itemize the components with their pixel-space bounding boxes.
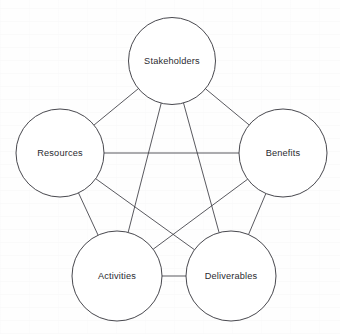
edge-stakeholders-resources xyxy=(94,89,138,125)
network-graph: StakeholdersResourcesBenefitsActivitiesD… xyxy=(0,0,340,334)
node-activities[interactable]: Activities xyxy=(72,231,162,321)
edge-stakeholders-benefits xyxy=(205,89,249,125)
diagram-canvas: StakeholdersResourcesBenefitsActivitiesD… xyxy=(0,0,340,334)
node-stakeholders[interactable]: Stakeholders xyxy=(129,18,216,105)
edge-resources-activities xyxy=(79,193,99,235)
node-benefits[interactable]: Benefits xyxy=(239,109,327,197)
node-label-resources: Resources xyxy=(37,148,83,158)
node-label-activities: Activities xyxy=(98,271,136,281)
node-label-benefits: Benefits xyxy=(266,148,301,158)
node-deliverables[interactable]: Deliverables xyxy=(186,231,276,321)
nodes-layer: StakeholdersResourcesBenefitsActivitiesD… xyxy=(16,18,327,322)
node-label-stakeholders: Stakeholders xyxy=(144,56,200,66)
edge-benefits-deliverables xyxy=(249,194,266,235)
edge-stakeholders-activities xyxy=(128,103,161,232)
node-resources[interactable]: Resources xyxy=(16,109,104,197)
node-label-deliverables: Deliverables xyxy=(205,271,258,281)
